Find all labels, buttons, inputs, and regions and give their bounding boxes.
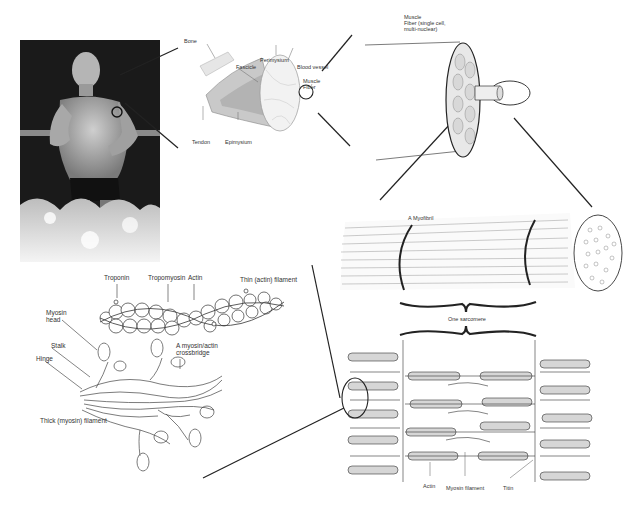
- label-perimysium: Perimysium: [260, 58, 289, 64]
- label-muscle-fiber: Muscle Fiber: [303, 79, 320, 91]
- label-myosin-head: Myosin head: [46, 310, 67, 324]
- label-tropomyosin: Tropomyosin: [148, 275, 185, 282]
- label-hinge: Hinge: [36, 356, 53, 363]
- thick-filament-drawing: [80, 339, 222, 471]
- label-myosin-filament: Myosin filament: [446, 486, 484, 492]
- muscle-fiber-drawing: [365, 42, 530, 160]
- label-myofibril: A Myofibril: [408, 216, 433, 222]
- label-fascicle: Fascicle: [236, 65, 256, 71]
- connector-line: [120, 48, 178, 75]
- label-titin: Titin: [503, 486, 513, 492]
- label-bone: Bone: [184, 39, 197, 45]
- label-epimysium: Epimysium: [225, 140, 252, 146]
- sarcomere-brace-top: [400, 302, 536, 312]
- label-muscle-fiber-title: Muscle Fiber (single cell, multi-nuclear…: [404, 15, 446, 32]
- label-stalk: Stalk: [51, 343, 65, 350]
- label-tendon: Tendon: [192, 140, 210, 146]
- label-crossbridge: A myosin/actin crossbridge: [176, 343, 218, 357]
- label-thin-filament: Thin (actin) filament: [240, 277, 297, 284]
- label-actin: Actin: [188, 275, 202, 282]
- label-one-sarcomere: One sarcomere: [448, 317, 486, 323]
- thin-filament-drawing: [100, 289, 284, 335]
- label-blood-vessel: Blood vessel: [297, 65, 328, 71]
- label-troponin: Troponin: [104, 275, 129, 282]
- diagram-drawings: [0, 0, 636, 511]
- label-thick-filament: Thick (myosin) filament: [40, 418, 107, 425]
- sarcomere-brace-bottom: [400, 326, 536, 336]
- label-sarcomere-actin: Actin: [423, 484, 435, 490]
- sarcomere-drawing: [342, 340, 592, 482]
- whole-muscle-drawing: [200, 44, 313, 131]
